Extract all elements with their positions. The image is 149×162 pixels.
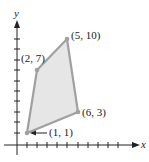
vertex-1-1	[25, 131, 30, 136]
y-axis-label: y	[13, 7, 19, 19]
y-axis-arrow-icon	[14, 20, 20, 28]
x-axis	[4, 142, 134, 148]
vertex-2-7	[35, 68, 40, 73]
x-axis-arrow-icon	[132, 142, 140, 148]
label-2-7: (2, 7)	[21, 52, 45, 65]
vertex-6-3	[76, 110, 81, 115]
label-6-3: (6, 3)	[82, 106, 106, 119]
vertex-5-10	[65, 37, 70, 42]
y-axis	[14, 24, 20, 155]
label-1-1: (1, 1)	[49, 126, 73, 139]
x-axis-label: x	[140, 138, 146, 150]
label-5-10: (5, 10)	[71, 29, 101, 42]
region-diagram: x y (5, 10) (2, 7) (6, 3) (1, 1)	[0, 0, 149, 162]
